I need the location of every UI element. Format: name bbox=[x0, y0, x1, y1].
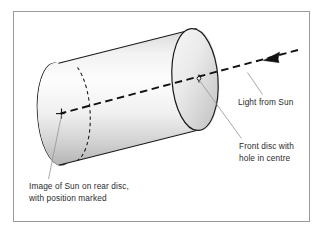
leader-line-light-from-sun bbox=[248, 73, 263, 95]
label-image-of-sun-line-2: with position marked bbox=[29, 193, 129, 205]
label-front-disc: Front disc with hole in centre bbox=[239, 141, 294, 164]
label-front-disc-line-2: hole in centre bbox=[239, 153, 294, 165]
figure-container: Light from Sun Front disc with hole in c… bbox=[0, 0, 323, 236]
incoming-light-arrowhead bbox=[264, 52, 280, 62]
label-light-from-sun: Light from Sun bbox=[238, 97, 293, 109]
label-image-of-sun-line-1: Image of Sun on rear disc, bbox=[29, 181, 129, 193]
label-image-of-sun: Image of Sun on rear disc, with position… bbox=[29, 181, 129, 204]
label-front-disc-line-1: Front disc with bbox=[239, 141, 294, 153]
